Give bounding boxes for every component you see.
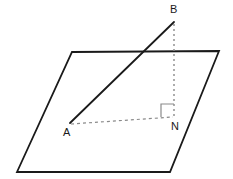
geometry-diagram: A B N [0,0,233,179]
canvas-background [0,0,233,179]
point-label-n: N [171,120,179,132]
point-label-b: B [170,3,177,15]
geometry-canvas: A B N [0,0,233,179]
point-label-a: A [63,126,71,138]
